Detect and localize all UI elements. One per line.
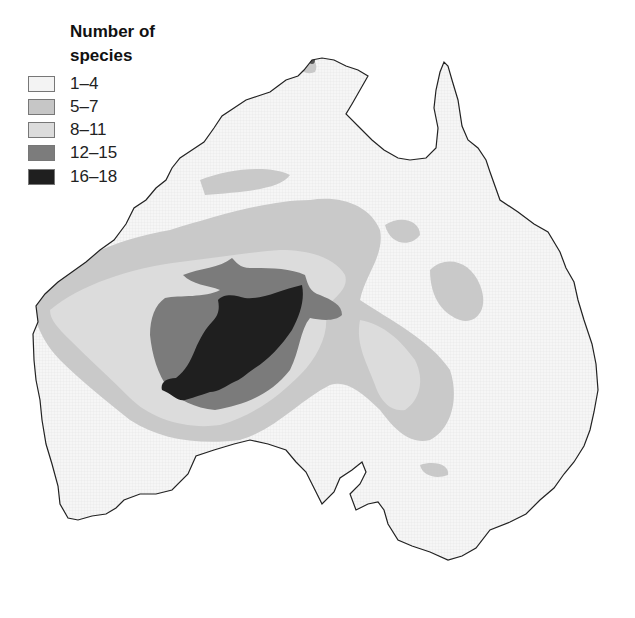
legend-title-line1: Number of bbox=[70, 22, 210, 42]
legend-label: 12–15 bbox=[70, 143, 117, 163]
legend-item-5-7: 5–7 bbox=[26, 97, 166, 117]
legend-swatch bbox=[28, 122, 55, 138]
legend-swatch bbox=[28, 145, 55, 161]
legend-label: 1–4 bbox=[70, 74, 98, 94]
legend-label: 5–7 bbox=[70, 97, 98, 117]
legend-item-16-18: 16–18 bbox=[26, 167, 166, 187]
legend-label: 8–11 bbox=[70, 120, 107, 140]
legend-label: 16–18 bbox=[70, 167, 117, 187]
legend-title-line2: species bbox=[70, 46, 210, 66]
legend-title: Number of species bbox=[70, 22, 210, 66]
legend-swatch bbox=[28, 76, 55, 92]
legend-swatch bbox=[28, 99, 55, 115]
legend-item-1-4: 1–4 bbox=[26, 74, 166, 94]
legend-item-12-15: 12–15 bbox=[26, 143, 166, 163]
legend-item-8-11: 8–11 bbox=[26, 120, 166, 140]
legend-swatch bbox=[28, 169, 55, 185]
